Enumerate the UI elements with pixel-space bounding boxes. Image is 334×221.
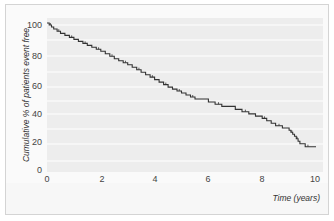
y-tick-40: 40	[12, 109, 42, 119]
x-tick-10: 10	[305, 174, 325, 184]
y-tick-80: 80	[12, 51, 42, 61]
km-curve-plot	[0, 0, 334, 221]
survival-step-line	[47, 23, 316, 147]
censor-marks	[50, 23, 308, 147]
y-tick-100: 100	[12, 20, 42, 30]
x-axis-label: Time (years)	[272, 193, 320, 203]
x-tick-0: 0	[37, 174, 57, 184]
y-tick-20: 20	[12, 137, 42, 147]
y-tick-60: 60	[12, 81, 42, 91]
x-tick-6: 6	[198, 174, 218, 184]
x-tick-2: 2	[92, 174, 112, 184]
y-axis-label: Cumulative % of patients event free	[21, 15, 31, 175]
x-tick-8: 8	[252, 174, 272, 184]
x-tick-4: 4	[145, 174, 165, 184]
